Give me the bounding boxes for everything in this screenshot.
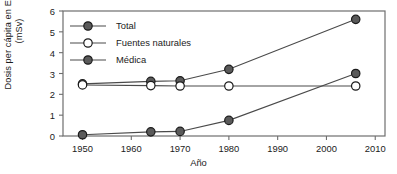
data-point: [352, 82, 360, 90]
plot-frame: [63, 11, 385, 136]
data-point: [352, 15, 360, 23]
plot-canvas: [0, 0, 397, 174]
data-point: [78, 131, 86, 139]
legend-marker-1: [84, 39, 92, 47]
legend-marker-0: [84, 22, 92, 30]
data-point: [225, 65, 233, 73]
data-point: [176, 127, 184, 135]
chart-figure: Dosis per cápita en EE. UU. (mSv) Año 01…: [0, 0, 397, 174]
data-point: [225, 82, 233, 90]
data-point: [225, 116, 233, 124]
data-point: [352, 69, 360, 77]
legend-marker-2: [84, 56, 92, 64]
data-point: [176, 82, 184, 90]
series-line-0: [83, 19, 356, 84]
data-point: [147, 128, 155, 136]
data-point: [78, 81, 86, 89]
data-point: [147, 81, 155, 89]
series-line-1: [83, 85, 356, 86]
